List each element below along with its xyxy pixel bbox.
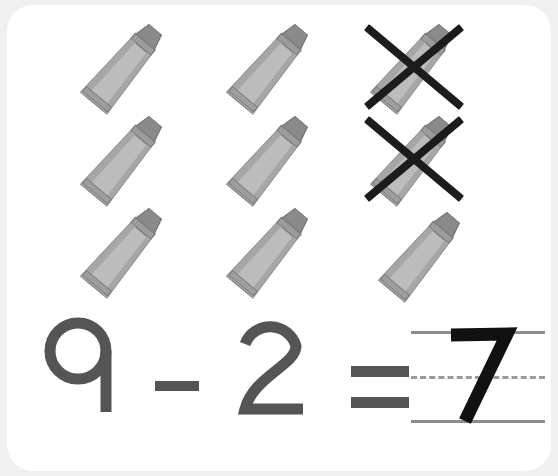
crayon-icon [222,15,319,118]
crayon-icon [222,107,319,210]
digit-nine-glyph [41,313,125,417]
object-cell [359,109,469,209]
crayon-icon [374,203,471,306]
subtrahend: 2 [233,313,343,471]
minuend: 9 [41,313,151,471]
digit-two-glyph [233,313,317,417]
crayon-icon [76,199,173,302]
answer-digit-seven-glyph [445,327,521,427]
crayon-icon [76,107,173,210]
object-grid [7,5,551,315]
worksheet-card: 9 - 2 = [7,5,551,471]
equation-row: 9 - 2 = [7,313,551,471]
minus-sign [155,381,199,391]
object-cell [69,17,179,117]
crayon-icon [366,15,463,118]
object-cell [215,17,325,117]
equals-sign [351,366,409,408]
object-cell [69,201,179,301]
equals-bar [351,366,409,377]
crayon-icon [222,199,319,302]
object-cell [359,17,469,117]
crayon-icon [366,107,463,210]
object-cell [367,205,477,305]
object-cell [69,109,179,209]
answer-area[interactable]: 7 [411,331,545,441]
crayon-icon [76,15,173,118]
object-cell [215,109,325,209]
equals-bar [351,397,409,408]
object-cell [215,201,325,301]
